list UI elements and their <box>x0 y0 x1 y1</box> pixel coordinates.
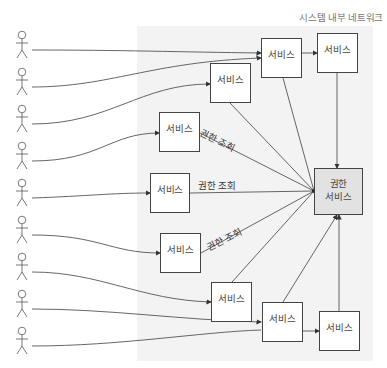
service-box-i[interactable]: 서비스 <box>319 311 360 351</box>
auth-service-box[interactable]: 권한 서비스 <box>314 168 363 215</box>
service-box-d[interactable]: 서비스 <box>159 112 200 152</box>
service-box-a[interactable]: 서비스 <box>261 38 302 78</box>
service-box-h[interactable]: 서비스 <box>262 302 303 342</box>
service-box-b[interactable]: 서비스 <box>317 33 358 73</box>
service-box-f[interactable]: 서비스 <box>160 233 201 273</box>
auth-service-line1: 권한 <box>315 177 362 190</box>
edge-label-auth-query-2: 권한 조회 <box>198 178 236 192</box>
service-box-e[interactable]: 서비스 <box>150 173 190 213</box>
auth-service-line2: 서비스 <box>315 190 362 203</box>
service-box-c[interactable]: 서비스 <box>210 63 251 103</box>
users-group <box>16 31 28 354</box>
service-box-g[interactable]: 서비스 <box>211 282 252 322</box>
